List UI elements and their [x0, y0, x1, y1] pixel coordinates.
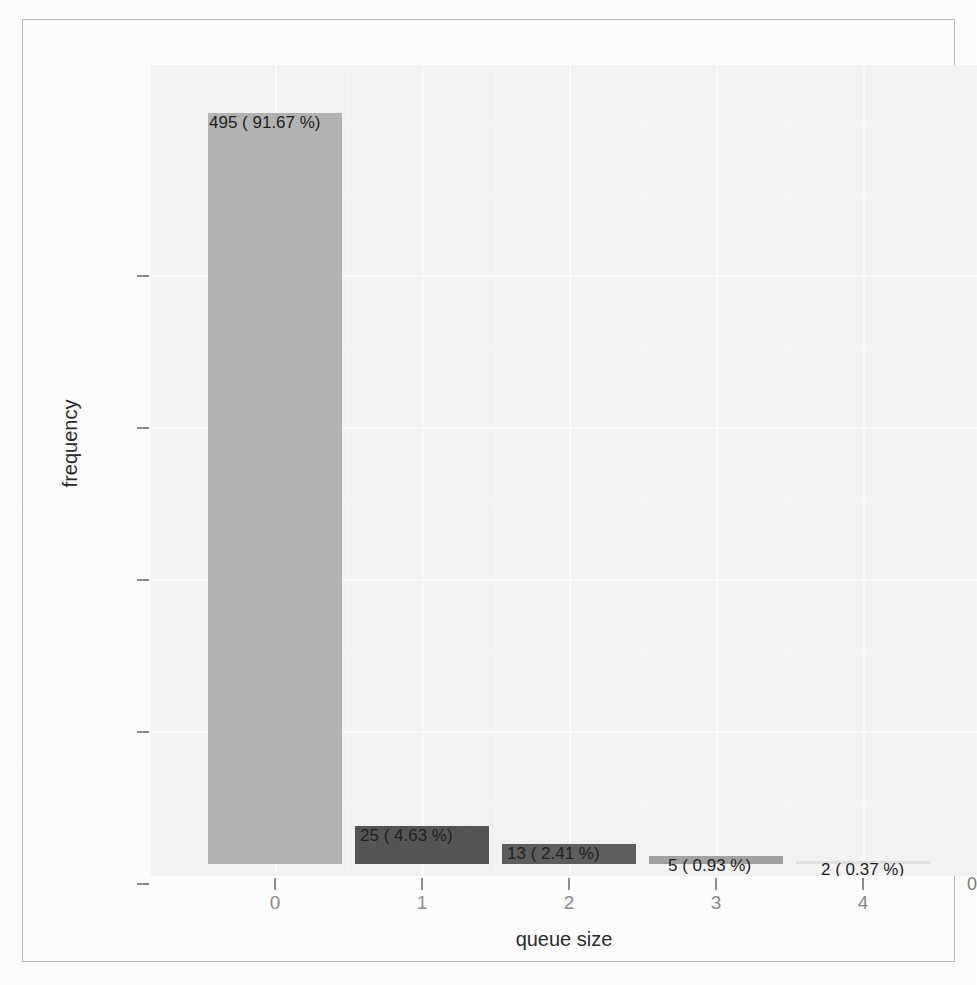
x-tick-label-2: 2	[549, 892, 589, 914]
x-tick-label-3: 3	[696, 892, 736, 914]
bar-chart-figure: frequency 0 100 200 300 400	[46, 40, 977, 981]
gridline-x-3-5	[789, 65, 790, 876]
gridline-x-3	[716, 65, 718, 876]
x-tick-mark-4	[862, 878, 864, 890]
x-tick-mark-0	[274, 878, 276, 890]
y-tick-mark-400	[137, 275, 149, 277]
gridline-x-0-5	[348, 65, 349, 876]
y-tick-label-0: 0	[891, 874, 977, 895]
gridline-x-1	[422, 65, 424, 876]
y-tick-mark-0	[137, 883, 149, 885]
bar-label-queue-0: 495 ( 91.67 %)	[209, 113, 321, 133]
x-tick-label-1: 1	[402, 892, 442, 914]
x-axis-title: queue size	[151, 928, 977, 951]
x-tick-mark-2	[568, 878, 570, 890]
plot-panel: 495 ( 91.67 %) 25 ( 4.63 %) 13 ( 2.41 %)…	[151, 65, 977, 876]
x-tick-label-0: 0	[255, 892, 295, 914]
y-tick-mark-200	[137, 579, 149, 581]
x-tick-mark-3	[715, 878, 717, 890]
bar-label-queue-3: 5 ( 0.93 %)	[668, 856, 751, 876]
bar-label-queue-1: 25 ( 4.63 %)	[360, 826, 453, 846]
bar-label-queue-4: 2 ( 0.37 %)	[821, 860, 904, 876]
gridline-x-2-5	[642, 65, 643, 876]
gridline-x-1-5	[495, 65, 496, 876]
figure-border-frame: frequency 0 100 200 300 400	[22, 19, 955, 962]
bar-queue-0[interactable]	[208, 113, 342, 864]
gridline-x-4	[863, 65, 865, 876]
x-tick-mark-1	[421, 878, 423, 890]
y-axis-title: frequency	[59, 344, 82, 544]
y-tick-mark-100	[137, 731, 149, 733]
bar-label-queue-2: 13 ( 2.41 %)	[507, 844, 600, 864]
gridline-x-2	[569, 65, 571, 876]
x-tick-label-4: 4	[843, 892, 883, 914]
y-tick-mark-300	[137, 427, 149, 429]
